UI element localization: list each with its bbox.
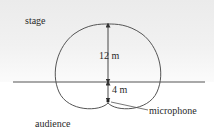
microphone-label: microphone [149, 106, 197, 116]
forward-distance-label: 12 m [99, 51, 119, 61]
rear-distance-label: 4 m [112, 85, 127, 95]
cardioid-diagram: stage audience 12 m 4 m microphone [0, 0, 214, 132]
stage-label: stage [25, 16, 46, 26]
audience-label: audience [35, 119, 71, 129]
microphone-point [106, 99, 109, 102]
